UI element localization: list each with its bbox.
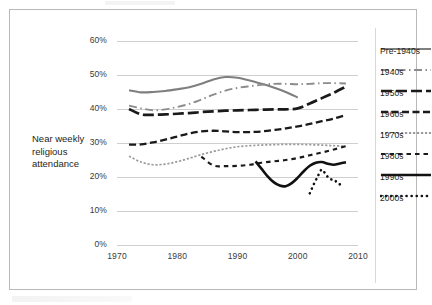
legend-swatch-icon [380,59,432,66]
legend-item-pre-1940s[interactable]: Pre-1940s [380,38,432,57]
legend-divider [375,28,376,283]
legend-swatch-icon [380,80,432,87]
y-tick-label: 30% [90,137,107,147]
y-tick-label: 50% [90,69,107,79]
x-tick-label: 2010 [338,251,378,261]
legend-swatch-icon [380,185,432,192]
legend-swatch-icon [380,143,432,150]
top-cropped-text-strip [105,1,175,5]
series-line-2000s [310,170,343,194]
legend-item-1940s[interactable]: 1940s [380,59,432,78]
x-tick-label: 2000 [278,251,318,261]
legend-item-1990s[interactable]: 1990s [380,164,432,183]
legend-swatch-icon [380,122,432,129]
y-tick-label: 0% [95,239,108,249]
bottom-cropped-text-strip [12,296,132,302]
x-tick-label: 1970 [97,251,137,261]
series-line-1970s [129,144,346,165]
series-layer [117,41,358,245]
plot-area [117,41,358,245]
legend-swatch-icon [380,38,432,45]
series-line-1960s [129,115,346,145]
y-tick-label: 20% [90,171,107,181]
chart-figure: Near weekly religious attendance 0%10%20… [0,0,432,305]
legend-item-2000s[interactable]: 2000s [380,185,432,204]
legend-item-1970s[interactable]: 1970s [380,122,432,141]
y-tick-label: 40% [90,103,107,113]
legend-item-1980s[interactable]: 1980s [380,143,432,162]
series-line-1940s [129,83,346,110]
y-tick-label: 10% [90,205,107,215]
x-tick-label: 1990 [218,251,258,261]
y-tick-label: 60% [90,35,107,45]
chart-frame: Near weekly religious attendance 0%10%20… [9,9,417,290]
legend-item-1950s[interactable]: 1950s [380,80,432,99]
x-tick-label: 1980 [157,251,197,261]
legend-swatch-icon [380,164,432,171]
legend-item-1960s[interactable]: 1960s [380,101,432,120]
chart-legend: Pre-1940s1940s1950s1960s1970s1980s1990s2… [380,38,432,206]
series-line-1990s [256,161,346,186]
gridline [117,245,358,246]
legend-swatch-icon [380,101,432,108]
